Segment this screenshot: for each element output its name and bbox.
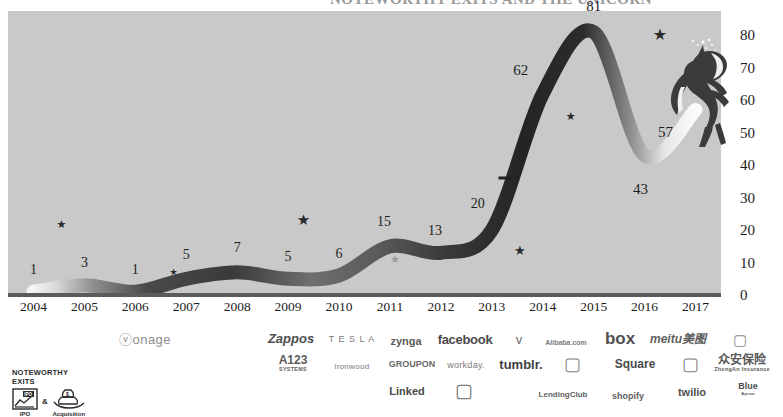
logo-text-zynga: zynga [390, 335, 421, 347]
logo-snapchat: ▢ [733, 332, 747, 347]
exit-marker-acquisition-1: ★ [169, 268, 177, 277]
exit-marker-dash [498, 177, 511, 180]
y-tick-20: 20 [740, 222, 755, 239]
company-logo-strip: ⓥonageZapposT E S L AzyngafacebookᴠAliba… [0, 326, 783, 411]
data-label-2012: 13 [428, 223, 442, 239]
logo-text-twilio: twilio [678, 386, 706, 398]
exit-marker-acquisition-3: ★ [390, 254, 400, 265]
logo-shopify: shopify [612, 392, 644, 401]
y-axis: 01020304050607080 [725, 11, 783, 301]
logo-subtext-blue-apron: Apron [738, 392, 758, 396]
data-label-2007: 5 [183, 247, 190, 263]
logo-zhongan: 众安保险ZhongAn Insurance [714, 354, 770, 372]
logo-workday: workday. [447, 361, 485, 370]
logo-text-shopify: shopify [612, 391, 644, 401]
logo-text-linkedin: Linked [389, 385, 424, 397]
chart-plot-area: 131575615132062814357 ★★★★★★★ [8, 11, 721, 295]
ipo-label: IPO [20, 411, 30, 417]
logo-blue-apron: BlueApron [738, 382, 758, 396]
x-tick-2013: 2013 [478, 299, 505, 315]
logo-text-zappos: Zappos [268, 331, 314, 346]
logo-text-gojek: ▢ [682, 354, 699, 374]
y-tick-60: 60 [740, 92, 755, 109]
x-axis-baseline [8, 293, 721, 297]
logo-lendingclub: LendingClub [539, 391, 588, 399]
logo-twilio: twilio [678, 387, 706, 398]
x-tick-2014: 2014 [529, 299, 556, 315]
logo-ironwood: ironwood [335, 363, 370, 371]
x-tick-2017: 2017 [682, 299, 709, 315]
page-title: NOTEWORTHY EXITS AND THE UNICORN [330, 0, 652, 8]
logo-twitter: ᴠ [516, 333, 523, 346]
logo-text-alibaba: Alibaba.com [545, 339, 587, 346]
exit-marker-ipo-4: ★ [514, 243, 526, 256]
logo-square: Square [615, 358, 656, 370]
x-tick-2008: 2008 [224, 299, 251, 315]
data-label-2009: 5 [285, 249, 292, 265]
x-axis: 2004200520062007200820092010201120122013… [8, 299, 721, 319]
logo-text-box: box [605, 329, 635, 348]
y-tick-70: 70 [740, 59, 755, 76]
logo-tumblr: tumblr. [499, 358, 542, 371]
logo-alibaba: Alibaba.com [545, 339, 587, 346]
data-label-2016: 43 [633, 181, 648, 198]
y-tick-80: 80 [740, 27, 755, 44]
data-label-2011: 15 [377, 214, 391, 230]
data-label-2005: 3 [81, 255, 88, 271]
logo-groupon: GROUPON [389, 360, 436, 369]
x-tick-2005: 2005 [71, 299, 98, 315]
logo-text-lendingclub: LendingClub [539, 390, 588, 399]
y-tick-50: 50 [740, 124, 755, 141]
logo-text-tumblr: tumblr. [499, 357, 542, 372]
data-label-2008: 7 [234, 240, 241, 256]
x-tick-2007: 2007 [173, 299, 200, 315]
x-tick-2015: 2015 [580, 299, 607, 315]
y-tick-40: 40 [740, 157, 755, 174]
page-title-strip: NOTEWORTHY EXITS AND THE UNICORN [0, 0, 783, 9]
y-tick-0: 0 [740, 287, 748, 304]
logo-text-workday: workday. [447, 360, 485, 370]
exit-marker-ipo-5: ★ [566, 111, 576, 122]
logo-text-facebook: facebook [438, 332, 493, 347]
exit-marker-ipo-0: ★ [57, 218, 67, 229]
x-tick-2011: 2011 [377, 299, 404, 315]
logo-text-snapchat: ▢ [733, 331, 747, 348]
logo-subtext-a123-systems: SYSTEMS [279, 367, 308, 372]
y-tick-30: 30 [740, 189, 755, 206]
x-tick-2004: 2004 [20, 299, 47, 315]
x-tick-2006: 2006 [122, 299, 149, 315]
logo-zappos: Zappos [268, 332, 314, 345]
logo-box: box [605, 330, 635, 347]
unicorn-trend-line [8, 11, 721, 295]
data-label-2006: 1 [132, 262, 139, 278]
logo-text-blue-apron: Blue [738, 381, 758, 391]
x-tick-2009: 2009 [275, 299, 302, 315]
logo-text-meitu: meitu美图 [650, 332, 706, 346]
logo-text-vonage: ⓥonage [119, 332, 171, 347]
logo-text-twitter: ᴠ [516, 332, 523, 347]
logo-text-instagram: ▢ [455, 380, 473, 401]
x-tick-2010: 2010 [326, 299, 353, 315]
logo-linkedin: Linked [389, 386, 424, 397]
logo-facebook: facebook [438, 333, 493, 346]
logo-tesla: T E S L A [329, 335, 376, 344]
data-label-2014: 62 [513, 61, 528, 78]
logo-meitu: meitu美图 [650, 333, 706, 345]
logo-text-a123-systems: A123 [279, 353, 308, 367]
y-tick-10: 10 [740, 254, 755, 271]
data-label-2010: 6 [336, 246, 343, 262]
x-tick-2016: 2016 [631, 299, 658, 315]
exit-marker-ipo-2: ★ [297, 213, 310, 228]
logo-text-groupon: GROUPON [389, 359, 436, 369]
logo-vonage: ⓥonage [119, 333, 171, 346]
acquisition-label: Acquisition [52, 411, 85, 417]
logo-subtext-zhongan: ZhongAn Insurance [714, 367, 770, 372]
x-tick-2012: 2012 [427, 299, 454, 315]
logo-text-square: Square [615, 357, 656, 371]
logo-text-tesla: T E S L A [329, 334, 376, 344]
logo-instagram: ▢ [455, 381, 473, 400]
unicorn-illustration [657, 39, 729, 149]
logo-text-zhongan: 众安保险 [718, 353, 766, 367]
logo-text-ironwood: ironwood [335, 362, 370, 371]
data-label-2015: 81 [586, 0, 601, 15]
